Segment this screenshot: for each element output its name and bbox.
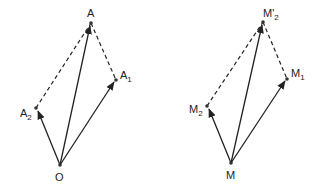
point-m2: [205, 104, 209, 108]
right-diagram: [205, 20, 289, 165]
label-a: A: [87, 8, 94, 19]
dashed-line-m2p-m1: [263, 22, 287, 79]
point-a1: [114, 78, 118, 82]
label-m2: M2: [189, 104, 203, 118]
point-m1: [285, 77, 289, 81]
label-a1: A1: [120, 70, 132, 84]
point-a2: [34, 106, 38, 110]
dashed-line-m2-m2p: [207, 22, 263, 106]
vector-oa1: [60, 82, 114, 165]
label-m: M: [226, 170, 235, 181]
label-m1: M1: [291, 68, 305, 82]
left-diagram: [34, 21, 118, 167]
dashed-line-a2-a: [36, 23, 91, 108]
label-o: O: [55, 172, 64, 183]
label-m2-prime: M'2: [263, 8, 279, 22]
vector-mm2: [209, 109, 231, 163]
point-a: [89, 21, 93, 25]
point-o: [58, 163, 62, 167]
dashed-line-a-a1: [91, 23, 116, 80]
vector-oa2: [38, 111, 60, 165]
vector-diagrams: [0, 0, 315, 193]
label-a2: A2: [20, 108, 32, 122]
point-m: [229, 161, 233, 165]
vector-mm1: [231, 81, 285, 163]
